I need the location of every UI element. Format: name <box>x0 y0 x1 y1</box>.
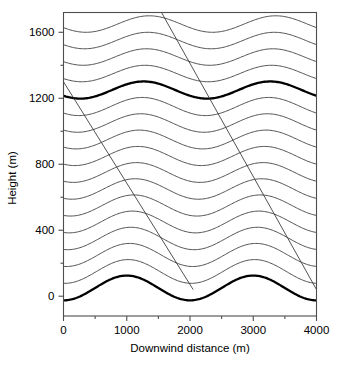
streamline-15 <box>64 32 317 48</box>
streamline-6 <box>64 179 317 199</box>
y-tick-label-0: 0 <box>48 290 54 302</box>
chart-figure: 01000200030004000 040080012001600 Downwi… <box>0 0 341 370</box>
streamline-9 <box>64 130 317 149</box>
streamline-0 <box>64 276 317 301</box>
streamline-2 <box>64 243 317 266</box>
x-axis-title: Downwind distance (m) <box>130 342 250 354</box>
streamline-16 <box>64 16 317 32</box>
streamline-12 <box>64 81 317 98</box>
streamline-7 <box>64 163 317 183</box>
wave-ray-1 <box>64 82 194 290</box>
y-tick-label-1600: 1600 <box>29 26 55 38</box>
streamline-11 <box>64 97 317 115</box>
x-axis-ticks: 01000200030004000 <box>60 316 329 336</box>
streamline-1 <box>64 260 317 284</box>
x-tick-label-2000: 2000 <box>177 324 203 336</box>
x-tick-label-3000: 3000 <box>240 324 266 336</box>
x-tick-label-0: 0 <box>60 324 66 336</box>
streamline-10 <box>64 114 317 132</box>
y-tick-label-1200: 1200 <box>29 92 55 104</box>
y-tick-label-400: 400 <box>35 224 54 236</box>
streamline-3 <box>64 227 317 249</box>
y-axis-title: Height (m) <box>6 151 18 205</box>
streamline-8 <box>64 146 317 165</box>
streamline-13 <box>64 65 317 81</box>
wave-rays-group <box>64 13 317 290</box>
streamline-chart: 01000200030004000 040080012001600 Downwi… <box>0 0 341 370</box>
x-tick-label-4000: 4000 <box>304 324 330 336</box>
y-tick-label-800: 800 <box>35 158 54 170</box>
streamlines-group <box>64 16 317 301</box>
y-axis-ticks: 040080012001600 <box>29 26 64 302</box>
x-tick-label-1000: 1000 <box>114 324 140 336</box>
